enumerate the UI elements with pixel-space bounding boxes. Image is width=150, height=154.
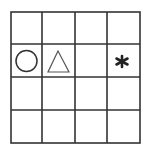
triangle-icon (48, 51, 69, 72)
grid-diagram (0, 0, 150, 154)
asterisk-icon (117, 56, 128, 67)
grid-lines (11, 12, 140, 143)
circle-icon (16, 51, 37, 72)
